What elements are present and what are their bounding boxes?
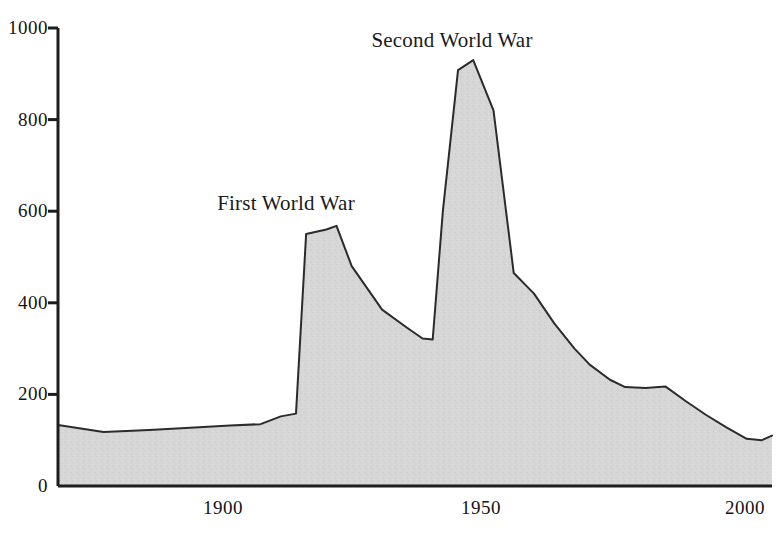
area-chart-figure: 1000 800 600 400 200 0 1900 1950 2000 Fi… [0, 0, 784, 534]
annotation-second-world-war: Second World War [371, 28, 532, 53]
y-tick-label-600: 600 [0, 200, 48, 222]
chart-plot-area [0, 0, 784, 534]
y-tick-label-800: 800 [0, 109, 48, 131]
y-tick-label-400: 400 [0, 292, 48, 314]
area-fill [58, 60, 772, 486]
y-tick-label-1000: 1000 [0, 17, 48, 39]
x-tick-label-1950: 1950 [461, 497, 501, 519]
y-tick-label-200: 200 [0, 383, 48, 405]
y-tick-label-0: 0 [0, 475, 48, 497]
x-tick-label-1900: 1900 [203, 497, 243, 519]
x-tick-label-2000: 2000 [725, 497, 765, 519]
annotation-first-world-war: First World War [217, 191, 355, 216]
